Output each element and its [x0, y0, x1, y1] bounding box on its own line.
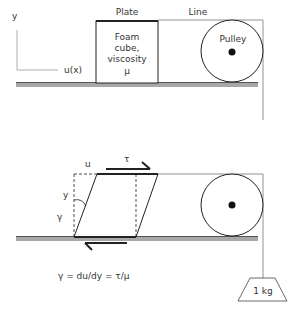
y-label: y [63, 190, 69, 200]
plate-label: Plate [116, 7, 139, 17]
pulley-axle [229, 49, 236, 56]
sheared-cube [74, 174, 158, 237]
cube-label-3: viscosity [107, 54, 147, 64]
shear-arrow-bottom [85, 243, 127, 250]
bottom-panel: u τ y γ 1 kg γ = du/dy = τ/μ [16, 154, 287, 301]
pulley-label: Pulley [220, 34, 248, 44]
top-panel: y u(x) Plate Foam cube, viscosity μ Line… [12, 7, 263, 120]
cube-label-2: cube, [115, 43, 140, 53]
tau-label: τ [124, 154, 129, 164]
weight-label: 1 kg [253, 286, 273, 296]
axis-x-label: u(x) [64, 65, 82, 75]
pulley-axle-bottom [229, 202, 236, 209]
gamma-label: γ [57, 212, 63, 222]
cube-label-1: Foam [115, 32, 140, 42]
angle-arc [74, 200, 86, 206]
u-label: u [85, 159, 91, 169]
shear-flow-diagram: y u(x) Plate Foam cube, viscosity μ Line… [0, 0, 299, 313]
axis-y-label: y [12, 11, 18, 21]
equation: γ = du/dy = τ/μ [58, 271, 130, 281]
line-label: Line [189, 7, 208, 17]
cube-label-4: μ [124, 66, 130, 76]
